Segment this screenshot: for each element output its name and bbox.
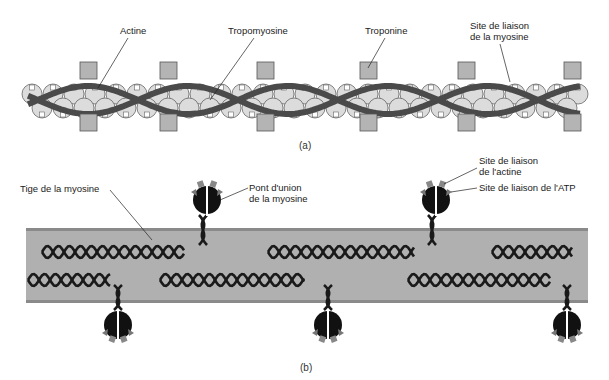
troponin-square bbox=[458, 62, 475, 79]
myosin-binding-notch bbox=[145, 112, 150, 117]
leader-line-atp-site bbox=[451, 188, 477, 192]
thick-filament-edge bbox=[26, 228, 588, 231]
myosin-binding-notch bbox=[418, 112, 423, 117]
leader-line-myosin-site bbox=[500, 44, 510, 82]
caption-a: (a) bbox=[299, 140, 311, 151]
label-actin-binding-site: Site de liaison de l'actine bbox=[479, 155, 538, 177]
myosin-binding-notch bbox=[124, 112, 129, 117]
myosin-binding-notch bbox=[51, 85, 56, 90]
label-pont-union: Pont d'union de la myosine bbox=[249, 182, 308, 204]
myosin-binding-notch bbox=[250, 112, 255, 117]
label-tige-myosine: Tige de la myosine bbox=[20, 183, 99, 194]
troponin-square bbox=[360, 114, 377, 131]
myosin-binding-notch bbox=[40, 112, 45, 117]
troponin-square bbox=[160, 114, 177, 131]
thick-filament bbox=[26, 228, 588, 303]
myosin-binding-notch bbox=[439, 112, 444, 117]
myosin-binding-notch bbox=[355, 112, 360, 117]
myosin-binding-notch bbox=[345, 85, 350, 90]
myosin-binding-notch bbox=[334, 112, 339, 117]
label-line: Site de liaison bbox=[470, 20, 529, 31]
label-myosin-binding-site: Site de liaison de la myosine bbox=[470, 20, 529, 42]
myosin-binding-notch bbox=[324, 85, 329, 90]
caption-b: (b) bbox=[300, 362, 312, 373]
myosin-binding-notch bbox=[229, 112, 234, 117]
troponin-square bbox=[257, 114, 274, 131]
leader-line-actine bbox=[98, 38, 128, 88]
label-actine: Actine bbox=[120, 25, 146, 36]
leader-line-actin-site bbox=[444, 168, 477, 184]
label-troponine: Troponine bbox=[365, 25, 407, 36]
troponin-square bbox=[458, 114, 475, 131]
myosin-binding-notch bbox=[534, 85, 539, 90]
myosin-binding-notch bbox=[429, 85, 434, 90]
label-line: Site de liaison bbox=[479, 155, 538, 166]
label-line: Pont d'union bbox=[249, 182, 308, 193]
troponin-square bbox=[360, 62, 377, 79]
myosin-binding-notch bbox=[544, 112, 549, 117]
troponin-square bbox=[564, 62, 581, 79]
myosin-binding-notch bbox=[450, 85, 455, 90]
leader-line-pont bbox=[220, 188, 248, 200]
troponin-square bbox=[564, 114, 581, 131]
myosin-binding-notch bbox=[523, 112, 528, 117]
myosin-binding-notch bbox=[30, 85, 35, 90]
troponin-square bbox=[160, 62, 177, 79]
label-line: de l'actine bbox=[479, 166, 538, 177]
label-tropomyosine: Tropomyosine bbox=[228, 25, 288, 36]
myosin-binding-notch bbox=[135, 85, 140, 90]
label-line: de la myosine bbox=[249, 193, 308, 204]
myosin-binding-notch bbox=[240, 85, 245, 90]
troponin-square bbox=[80, 62, 97, 79]
troponin-square bbox=[257, 62, 274, 79]
thick-filament-edge bbox=[26, 300, 588, 303]
troponin-square bbox=[80, 114, 97, 131]
label-atp-binding-site: Site de liaison de l'ATP bbox=[479, 182, 576, 193]
label-line: de la myosine bbox=[470, 31, 529, 42]
